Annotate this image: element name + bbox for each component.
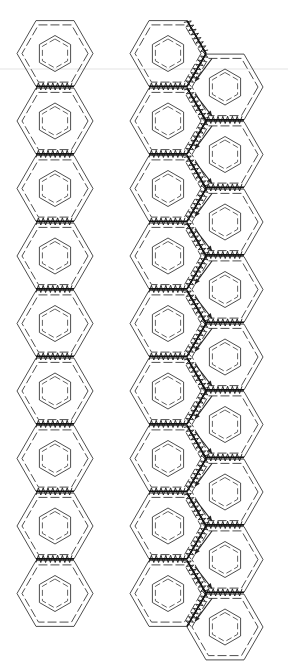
benzene-ring xyxy=(152,576,183,612)
hexagon-inner-outline xyxy=(22,295,88,352)
hexagon-outline xyxy=(17,358,93,424)
benzene-ring xyxy=(152,171,183,207)
benzene-ring xyxy=(152,103,183,139)
benzene-ring-inner xyxy=(212,275,237,304)
hexagon-inner-outline xyxy=(135,227,201,284)
hexagon-outline xyxy=(17,291,93,357)
benzene-ring-inner xyxy=(212,545,237,574)
hexagon-outline xyxy=(17,88,93,154)
hatched-bond xyxy=(36,420,74,427)
benzene-ring xyxy=(152,306,183,342)
hexagon-unit xyxy=(17,223,93,289)
benzene-ring xyxy=(39,373,70,409)
hexagon-inner-outline xyxy=(22,25,88,82)
hatched-bond xyxy=(206,454,244,461)
benzene-ring-inner xyxy=(212,343,237,372)
hatched-bond xyxy=(184,358,208,391)
hexagon-outline xyxy=(17,493,93,559)
benzene-ring xyxy=(39,508,70,544)
hatched-bond xyxy=(206,386,244,393)
benzene-ring-inner xyxy=(212,410,237,439)
benzene-ring xyxy=(152,36,183,72)
right-ribbon xyxy=(130,21,263,660)
benzene-ring-inner xyxy=(155,444,180,473)
benzene-ring xyxy=(209,407,240,443)
benzene-ring xyxy=(209,542,240,578)
hatched-bond xyxy=(149,353,187,360)
benzene-ring-inner xyxy=(155,39,180,68)
hexagon-unit xyxy=(17,358,93,424)
benzene-ring xyxy=(209,609,240,645)
hatched-bond xyxy=(36,285,74,292)
hatched-bond xyxy=(184,88,208,121)
benzene-ring xyxy=(152,238,183,274)
hexagon-inner-outline xyxy=(192,598,258,655)
benzene-ring xyxy=(209,474,240,510)
hexagon-unit xyxy=(17,493,93,559)
benzene-ring-inner xyxy=(212,478,237,507)
hatched-bond xyxy=(36,83,74,90)
hatched-bond xyxy=(149,285,187,292)
hatched-bond xyxy=(36,488,74,495)
hexagon-inner-outline xyxy=(135,430,201,487)
benzene-ring-inner xyxy=(42,579,67,608)
benzene-ring-inner xyxy=(212,613,237,642)
benzene-ring xyxy=(209,69,240,105)
benzene-ring-inner xyxy=(155,579,180,608)
benzene-ring xyxy=(39,36,70,72)
hatched-bond xyxy=(184,291,208,324)
hexagon-inner-outline xyxy=(22,160,88,217)
benzene-ring xyxy=(209,272,240,308)
hexagon-inner-outline xyxy=(192,396,258,453)
hexagon-unit xyxy=(17,561,93,627)
benzene-ring xyxy=(152,373,183,409)
benzene-ring xyxy=(152,441,183,477)
benzene-ring-inner xyxy=(42,512,67,541)
hatched-bond xyxy=(149,83,187,90)
hatched-bond xyxy=(149,150,187,157)
hatched-bond xyxy=(149,218,187,225)
hexagon-outline xyxy=(17,156,93,222)
hexagon-inner-outline xyxy=(135,295,201,352)
benzene-ring-inner xyxy=(42,444,67,473)
hatched-bond xyxy=(184,156,208,189)
hatched-bond xyxy=(184,21,208,54)
hexagon-inner-outline xyxy=(22,430,88,487)
hexagon-inner-outline xyxy=(22,92,88,149)
hexagon-unit xyxy=(17,426,93,492)
hatched-bond xyxy=(149,555,187,562)
hexagon-inner-outline xyxy=(22,497,88,554)
hexagon-inner-outline xyxy=(192,463,258,520)
hexagon-inner-outline xyxy=(135,160,201,217)
hexagon-inner-outline xyxy=(135,92,201,149)
benzene-ring-inner xyxy=(42,107,67,136)
hatched-bond xyxy=(184,561,208,594)
hexagon-inner-outline xyxy=(192,58,258,115)
hatched-bond xyxy=(206,521,244,528)
benzene-ring-inner xyxy=(155,377,180,406)
benzene-ring xyxy=(39,238,70,274)
benzene-ring-inner xyxy=(155,242,180,271)
benzene-ring xyxy=(39,103,70,139)
benzene-ring-inner xyxy=(212,73,237,102)
hatched-bond xyxy=(149,488,187,495)
hexagon-unit xyxy=(17,156,93,222)
hexagon-inner-outline xyxy=(22,565,88,622)
benzene-ring-inner xyxy=(42,39,67,68)
benzene-ring-inner xyxy=(155,107,180,136)
hatched-bond xyxy=(36,218,74,225)
hexagon-inner-outline xyxy=(192,328,258,385)
hatched-bond xyxy=(206,116,244,123)
hexagon-inner-outline xyxy=(135,25,201,82)
hatched-bond xyxy=(36,150,74,157)
hatched-bond xyxy=(206,251,244,258)
hexagon-inner-outline xyxy=(22,362,88,419)
benzene-ring xyxy=(39,576,70,612)
hatched-bond xyxy=(206,589,244,596)
benzene-ring xyxy=(209,204,240,240)
hexagon-unit xyxy=(17,88,93,154)
benzene-ring-inner xyxy=(212,208,237,237)
hexagon-outline xyxy=(17,223,93,289)
benzene-ring-inner xyxy=(155,512,180,541)
hatched-bond xyxy=(149,420,187,427)
